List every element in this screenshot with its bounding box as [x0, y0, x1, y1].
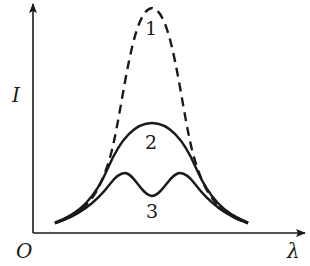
origin-label: O	[16, 239, 32, 263]
x-axis-label: λ	[286, 239, 300, 263]
intensity-wavelength-diagram: I λ O 1 2 3	[0, 0, 310, 266]
curve-1	[55, 8, 248, 223]
curve-2-label: 2	[145, 131, 157, 153]
curve-1-label: 1	[145, 17, 157, 39]
curve-3-label: 3	[146, 200, 158, 222]
y-axis-label: I	[11, 83, 21, 107]
left-tail	[55, 207, 86, 223]
right-tail	[218, 207, 248, 223]
